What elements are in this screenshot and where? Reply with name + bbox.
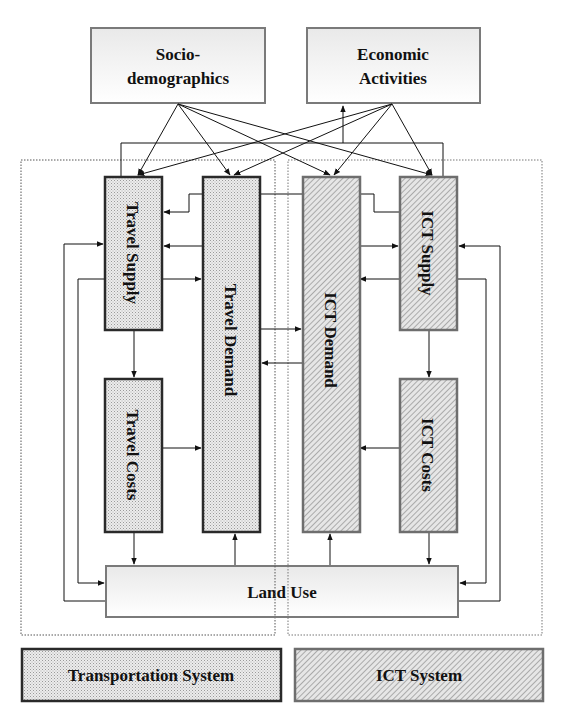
svg-text:Activities: Activities (359, 69, 427, 88)
svg-text:Land Use: Land Use (247, 583, 317, 602)
svg-text:ICT Demand: ICT Demand (321, 292, 340, 388)
svg-text:Transportation System: Transportation System (68, 666, 234, 685)
external-influence-arrows (138, 104, 432, 175)
svg-text:Travel Demand: Travel Demand (221, 284, 240, 397)
legend-transportation-system: Transportation System (22, 649, 281, 701)
ict-transport-landuse-diagram: Socio- demographics Economic Activities (0, 0, 571, 723)
economic-activities-node: Economic Activities (307, 28, 480, 103)
socio-demographics-node: Socio- demographics (91, 28, 265, 103)
travel-costs-node: Travel Costs (105, 379, 162, 532)
svg-text:Socio-: Socio- (156, 45, 201, 64)
svg-text:ICT Supply: ICT Supply (418, 210, 437, 296)
svg-text:Economic: Economic (357, 45, 429, 64)
land-use-node: Land Use (106, 566, 458, 617)
travel-demand-node: Travel Demand (203, 177, 260, 532)
ict-demand-node: ICT Demand (303, 177, 360, 532)
ict-costs-node: ICT Costs (400, 379, 457, 532)
svg-text:Travel Supply: Travel Supply (123, 202, 142, 305)
legend-ict-system: ICT System (295, 649, 543, 701)
svg-text:Travel Costs: Travel Costs (123, 410, 142, 501)
svg-text:ICT System: ICT System (376, 666, 462, 685)
svg-text:demographics: demographics (127, 69, 229, 88)
travel-supply-node: Travel Supply (105, 177, 162, 330)
svg-text:ICT Costs: ICT Costs (418, 418, 437, 492)
ict-supply-node: ICT Supply (400, 177, 457, 330)
